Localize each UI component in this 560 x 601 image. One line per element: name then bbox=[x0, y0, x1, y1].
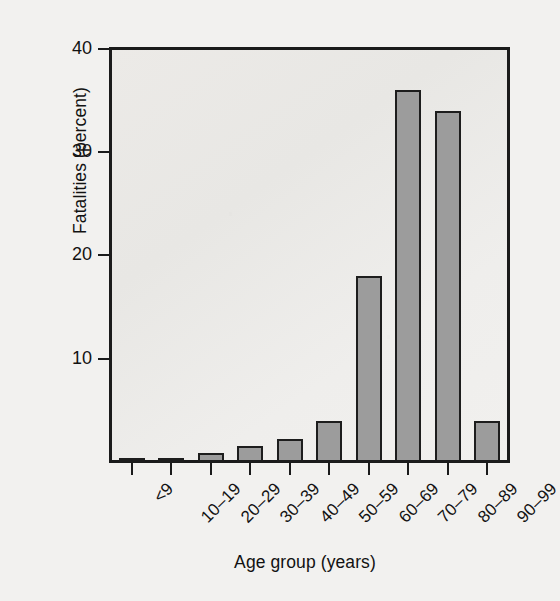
x-axis-title: Age group (years) bbox=[95, 552, 515, 573]
bar-80-89 bbox=[435, 111, 461, 462]
y-tick-mark bbox=[98, 151, 110, 153]
x-tick-label: 20–29 bbox=[237, 479, 285, 527]
y-tick-label: 30 bbox=[28, 142, 92, 160]
y-tick-mark bbox=[98, 48, 110, 50]
bar-60-69 bbox=[356, 276, 382, 462]
x-tick-mark bbox=[486, 463, 488, 475]
x-tick-label: 60–69 bbox=[395, 479, 443, 527]
x-tick-mark bbox=[249, 463, 251, 475]
x-tick-mark bbox=[407, 463, 409, 475]
y-tick-label: 40 bbox=[28, 39, 92, 57]
y-tick-mark bbox=[98, 254, 110, 256]
bar-50-59 bbox=[316, 421, 342, 462]
x-tick-label: 90–99 bbox=[513, 479, 560, 527]
x-tick-mark bbox=[210, 463, 212, 475]
x-tick-label: 40–49 bbox=[316, 479, 364, 527]
bar-10-19 bbox=[158, 458, 184, 462]
bar-70-79 bbox=[395, 90, 421, 462]
x-tick-label: 80–89 bbox=[474, 479, 522, 527]
x-tick-mark bbox=[328, 463, 330, 475]
bar-9 bbox=[119, 458, 145, 462]
x-tick-mark bbox=[368, 463, 370, 475]
y-tick-label: 20 bbox=[28, 245, 92, 263]
x-tick-mark bbox=[289, 463, 291, 475]
bar-20-29 bbox=[198, 453, 224, 462]
x-tick-label: <9 bbox=[150, 479, 178, 507]
y-tick-label: 10 bbox=[28, 349, 92, 367]
bar-90-99 bbox=[474, 421, 500, 462]
x-tick-label: 30–39 bbox=[276, 479, 324, 527]
bar-40-49 bbox=[277, 439, 303, 462]
y-tick-mark bbox=[98, 358, 110, 360]
x-tick-label: 10–19 bbox=[197, 479, 245, 527]
x-tick-label: 50–59 bbox=[355, 479, 403, 527]
y-tick-label-text: 10 bbox=[34, 349, 92, 367]
x-tick-mark bbox=[447, 463, 449, 475]
y-tick-label-text: 30 bbox=[34, 142, 92, 160]
x-tick-label: 70–79 bbox=[434, 479, 482, 527]
y-tick-label-text: 20 bbox=[34, 245, 92, 263]
x-tick-mark bbox=[170, 463, 172, 475]
y-tick-label-text: 40 bbox=[34, 39, 92, 57]
x-tick-mark bbox=[131, 463, 133, 475]
bar-30-39 bbox=[237, 446, 263, 462]
